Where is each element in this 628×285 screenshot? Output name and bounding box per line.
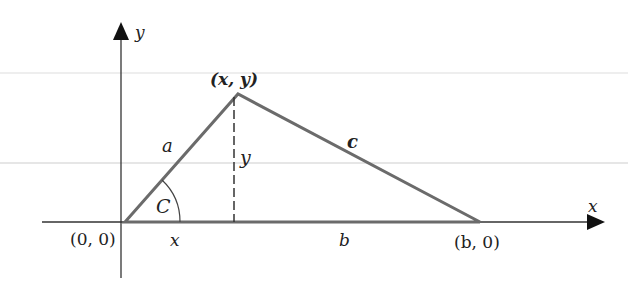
x-axis-arrow-icon	[587, 214, 605, 230]
x-axis-label: x	[588, 196, 598, 216]
side-c-label: c	[347, 131, 358, 152]
apex-label: (x, y)	[210, 69, 258, 89]
origin-label: (0, 0)	[70, 229, 116, 249]
angle-c-label: C	[156, 195, 171, 217]
law-of-cosines-diagram: y x (x, y) (0, 0) (b, 0) a c b C y x	[0, 0, 628, 285]
base-right-label: (b, 0)	[454, 232, 500, 252]
side-b-label: b	[339, 230, 350, 250]
height-label: y	[239, 146, 251, 168]
foot-x-label: x	[170, 230, 180, 250]
y-axis-label: y	[134, 22, 145, 42]
y-axis-arrow-icon	[113, 22, 129, 40]
triangle	[125, 94, 480, 222]
side-a-label: a	[162, 135, 173, 156]
